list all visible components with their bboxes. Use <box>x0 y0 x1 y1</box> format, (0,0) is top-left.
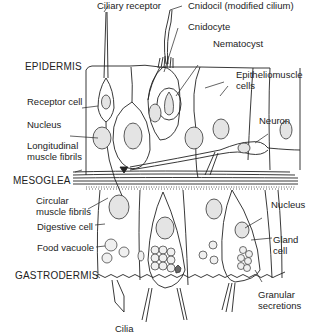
label-food-vacuole: Food vacuole <box>37 242 94 253</box>
label-circular-1: Circular <box>36 195 69 206</box>
layer-epidermis: EPIDERMIS <box>25 61 82 72</box>
label-epitheliomuscle-1: Epitheliomuscle <box>236 69 303 80</box>
label-nematocyst: Nematocyst <box>213 38 263 49</box>
layer-gastrodermis: GASTRODERMIS <box>15 270 99 281</box>
label-epitheliomuscle-2: cells <box>236 80 255 91</box>
cnidocyte-outline <box>148 67 180 140</box>
label-longitudinal-2: muscle fibrils <box>27 151 82 162</box>
label-neuron: Neuron <box>259 115 290 126</box>
label-gland-1: Gland <box>273 234 298 245</box>
label-cnidocil: Cnidocil (modified cilium) <box>188 0 294 11</box>
label-ciliary-receptor: Ciliary receptor <box>97 0 161 11</box>
label-granular-2: secretions <box>258 300 301 311</box>
receptor-nucleus <box>102 95 111 109</box>
food-vacuole <box>105 239 117 251</box>
label-nucleus-right: Nucleus <box>271 199 305 210</box>
nucleus-right <box>235 222 249 238</box>
label-longitudinal-1: Longitudinal <box>27 140 78 151</box>
label-granular-1: Granular <box>258 289 295 300</box>
label-receptor-cell: Receptor cell <box>27 96 82 107</box>
layer-mesoglea: MESOGLEA <box>13 175 71 186</box>
label-cnidocyte: Cnidocyte <box>188 21 230 32</box>
label-nucleus-left: Nucleus <box>27 119 61 130</box>
granular-secretions-left <box>151 246 175 272</box>
label-digestive-cell: Digestive cell <box>37 221 93 232</box>
granular-secretions-right <box>238 247 253 272</box>
cilia <box>112 280 124 312</box>
neuron <box>130 142 300 167</box>
label-cilia: Cilia <box>115 323 133 334</box>
body-wall-diagram <box>0 0 315 336</box>
label-gland-2: cell <box>273 245 287 256</box>
label-circular-2: muscle fibrils <box>36 206 91 217</box>
gland-cell-left <box>148 192 185 288</box>
